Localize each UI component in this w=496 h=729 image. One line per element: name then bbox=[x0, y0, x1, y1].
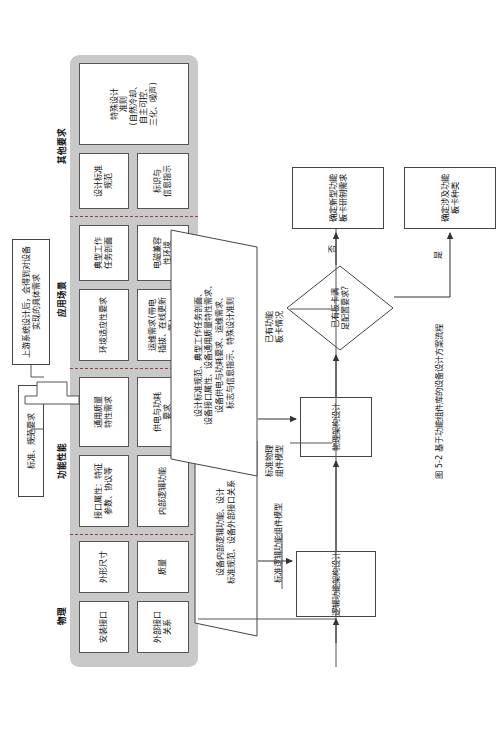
section-label-other: 其他要求 bbox=[55, 128, 67, 164]
data-physical-inputs: 设计标准规范、典型工作任务剖面、设备接口属性、设备通用质量特性需求、设备供电与功… bbox=[170, 229, 258, 477]
req-cell-environment-adapt: 环境适应性要求 bbox=[79, 289, 129, 361]
branch-label-yes: 是 bbox=[432, 251, 443, 259]
req-cell-mass: 质量 bbox=[137, 541, 189, 593]
node-decision-board-config: 已有板卡满足配置要求? bbox=[286, 265, 394, 351]
label-existing-board-status: 已有功能板卡情况 bbox=[264, 273, 284, 343]
node-physical-architecture-design: 物理架构设计 bbox=[300, 397, 372, 457]
req-cell-label: 外形尺寸 bbox=[99, 551, 109, 583]
upstream-requirements-box: 上游系统设计后，会得到对设备实现的具体需求 bbox=[12, 239, 50, 365]
node-label: 已有板卡满足配置要求? bbox=[330, 286, 350, 330]
req-cell-mounting-interface: 安装接口 bbox=[79, 601, 129, 653]
req-cell-external-interface: 外部接口关系 bbox=[137, 601, 189, 653]
req-cell-label: 质量 bbox=[158, 559, 168, 575]
upstream-requirements-label: 上游系统设计后，会得到对设备实现的具体需求 bbox=[21, 243, 41, 361]
standards-requirements-label: 标准、规范要求 bbox=[26, 413, 36, 469]
node-label: 确定新型功能板卡研制需求 bbox=[328, 174, 349, 222]
req-cell-label: 标识与信息指示 bbox=[153, 165, 172, 197]
section-label-scenario: 应用场景 bbox=[55, 281, 67, 317]
branch-label-no: 否 bbox=[326, 245, 337, 253]
standards-requirements-box: 标准、规范要求 bbox=[18, 385, 44, 497]
req-cell-label: 典型工作任务剖面 bbox=[94, 237, 113, 269]
line-upstream-to-arrow bbox=[31, 365, 44, 377]
req-cell-label: 环境适应性要求 bbox=[99, 297, 109, 353]
band-divider-1 bbox=[70, 534, 198, 535]
req-cell-label: 设计标准规范 bbox=[94, 165, 113, 197]
node-board-types: 确定涉及功能板卡种类 bbox=[404, 167, 496, 229]
node-logic-architecture-design: 逻辑功能架构设计 bbox=[296, 551, 376, 617]
req-cell-dimensions: 外形尺寸 bbox=[79, 541, 129, 593]
section-label-function: 功能性能 bbox=[55, 443, 67, 479]
req-cell-label: 外部接口关系 bbox=[153, 611, 172, 643]
arrow-decision-yes bbox=[394, 233, 450, 297]
req-cell-label: 特殊设计准则(自然冷却、自主可控、三化、噪声) bbox=[110, 82, 159, 125]
req-cell-label: 通用质量特性需求 bbox=[94, 396, 113, 428]
req-cell-marking-indication: 标识与信息指示 bbox=[137, 153, 189, 209]
data-label: 设计标准规范、典型工作任务剖面、设备接口属性、设备通用质量特性需求、设备供电与功… bbox=[193, 281, 235, 425]
node-label: 逻辑功能架构设计 bbox=[331, 552, 341, 616]
req-cell-label: 接口属性：特征参数、协议等 bbox=[94, 463, 113, 519]
req-cell-special-design: 特殊设计准则(自然冷却、自主可控、三化、噪声) bbox=[79, 63, 189, 145]
req-cell-quality-chars: 通用质量特性需求 bbox=[79, 377, 129, 447]
label-standard-physical-model: 标准物理组件模型 bbox=[264, 407, 284, 477]
data-label: 设备内部逻辑功能、设计标准规范、设备外部接口关系 bbox=[215, 480, 236, 584]
req-cell-label: 内部逻辑功能 bbox=[158, 467, 168, 515]
req-cell-task-profile: 典型工作任务剖面 bbox=[79, 225, 129, 281]
band-divider-3 bbox=[70, 216, 198, 217]
section-label-physical: 物理 bbox=[55, 607, 67, 625]
node-label: 确定涉及功能板卡种类 bbox=[440, 174, 461, 222]
label-standard-logic-model: 标准逻辑功能组件模型 bbox=[272, 503, 283, 583]
req-cell-interface-attrs: 接口属性：特征参数、协议等 bbox=[79, 455, 129, 527]
node-label: 物理架构设计 bbox=[331, 403, 341, 451]
figure-caption: 图 5-2 基于功能组件库的设备设计方案流程 bbox=[432, 324, 444, 479]
req-cell-design-standard: 设计标准规范 bbox=[79, 153, 129, 209]
req-cell-label: 安装接口 bbox=[99, 611, 109, 643]
node-new-board-requirement: 确定新型功能板卡研制需求 bbox=[292, 167, 384, 229]
